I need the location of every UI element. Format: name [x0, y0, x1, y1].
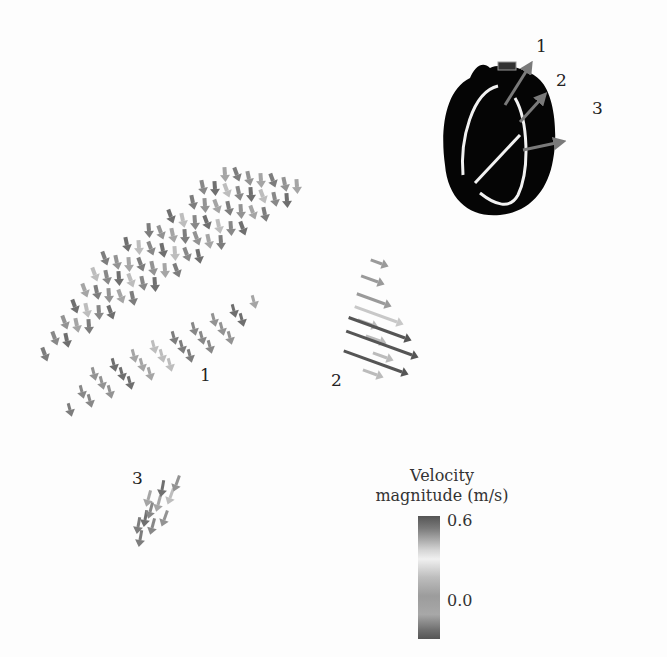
legend-title-line1: Velocity: [352, 466, 532, 486]
colorbar-max-label: 0.6: [447, 511, 472, 530]
legend-title-line2: magnitude (m/s): [352, 486, 532, 506]
legend-title: Velocity magnitude (m/s): [352, 466, 532, 506]
colorbar-min-label: 0.0: [447, 591, 472, 610]
inset-arrow-label-2: 2: [556, 72, 567, 89]
velocity-field-figure: 1 2 3 1 2 3 Velocity magnitude (m/s) 0.6…: [0, 0, 667, 657]
colorbar: [418, 516, 440, 639]
inset-arrow-label-3: 3: [592, 100, 603, 117]
heart-inset: [0, 0, 667, 657]
region-label-3: 3: [132, 470, 143, 487]
heart-shape: [443, 62, 555, 215]
inset-arrow-label-1: 1: [536, 38, 547, 55]
region-label-1: 1: [200, 367, 211, 384]
region-label-2: 2: [331, 372, 342, 389]
